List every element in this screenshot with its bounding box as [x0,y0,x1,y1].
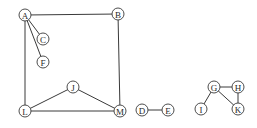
node-a: A [19,9,31,21]
node-label: H [235,83,242,93]
node-label: I [200,105,203,115]
node-f: F [37,56,49,68]
node-c: C [37,33,49,45]
node-l: L [19,105,31,117]
edges-layer [25,14,238,111]
node-k: K [232,103,244,115]
node-m: M [114,105,126,117]
node-label: C [40,35,46,45]
edge-l-j [25,87,73,111]
node-i: I [195,103,207,115]
node-label: M [116,107,124,117]
node-label: A [22,11,29,21]
undirected-graph: ABCFJLMDEGHIK [0,0,257,128]
nodes-layer: ABCFJLMDEGHIK [19,8,244,117]
edge-j-m [73,87,120,111]
node-label: F [40,58,45,68]
node-label: E [165,106,171,116]
node-d: D [136,104,148,116]
node-label: L [22,107,28,117]
edge-b-m [118,14,120,111]
node-e: E [162,104,174,116]
node-label: D [139,106,146,116]
node-b: B [112,8,124,20]
node-h: H [232,81,244,93]
node-label: K [235,105,242,115]
node-j: J [67,81,79,93]
node-g: G [208,81,220,93]
node-label: B [115,10,121,20]
node-label: J [71,83,75,93]
edge-a-b [25,14,118,15]
node-label: G [211,83,218,93]
